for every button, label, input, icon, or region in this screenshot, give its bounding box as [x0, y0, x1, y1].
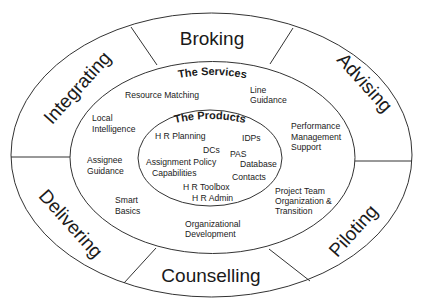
divider-piloting-counselling [269, 249, 310, 281]
product-pas: PAS [230, 149, 247, 159]
product-capabilities: Capabilities [152, 168, 196, 178]
product-idps: IDPs [242, 133, 261, 143]
segment-delivering: Delivering [35, 185, 107, 262]
services-title: The Services [177, 65, 248, 80]
divider-counselling-delivering [124, 248, 156, 283]
service-organizational-development: Organizational Development [185, 219, 243, 239]
segment-broking: Broking [180, 28, 244, 49]
service-local-intelligence: Local Intelligence [92, 113, 136, 134]
service-assignee-guidance: Assignee Guidance [87, 155, 125, 176]
segment-advising: Advising [333, 49, 397, 116]
service-resource-matching: Resource Matching [125, 90, 199, 100]
product-dcs: DCs [203, 145, 220, 155]
service-smart-basics: Smart Basics [115, 195, 140, 216]
service-performance-management-support: Performance Management Support [291, 121, 344, 152]
product-hr-toolbox: H R Toolbox [183, 182, 230, 192]
product-hr-planning: H R Planning [155, 131, 206, 141]
product-database: Database [240, 159, 277, 169]
service-line-guidance: Line Guidance [250, 85, 287, 105]
divider-integrating-broking [131, 27, 157, 65]
segment-piloting: Piloting [325, 200, 382, 260]
divider-broking-advising [270, 28, 293, 64]
product-assignment-policy: Assignment Policy [146, 157, 217, 167]
products-title: The Products [173, 109, 247, 125]
product-hr-admin: H R Admin [192, 193, 233, 203]
product-contacts: Contacts [232, 172, 266, 182]
segment-counselling: Counselling [161, 265, 260, 286]
services-products-diagram: Broking Advising Piloting Counselling De… [0, 0, 421, 308]
service-project-team-organization-transition: Project Team Organization & Transition [275, 186, 334, 216]
